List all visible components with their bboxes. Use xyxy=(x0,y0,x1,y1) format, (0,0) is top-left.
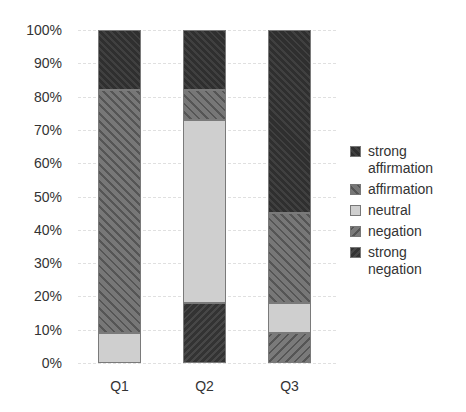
legend: strong affirmation affirmation neutral n… xyxy=(350,143,460,282)
bar-q1 xyxy=(98,30,141,363)
y-tick-label: 80% xyxy=(34,89,62,105)
segment-strong-affirmation xyxy=(268,30,311,213)
segment-neutral xyxy=(268,303,311,333)
legend-label: strong negation xyxy=(368,244,422,277)
y-tick-label: 100% xyxy=(26,22,62,38)
segment-neutral xyxy=(183,120,226,303)
legend-label: negation xyxy=(368,223,422,239)
segment-strong-affirmation xyxy=(98,30,141,90)
stacked-bar-chart: 0%10%20%30%40%50%60%70%80%90%100% Q1Q2Q3… xyxy=(0,0,466,412)
legend-item-affirmation: affirmation xyxy=(350,181,460,198)
neutral-swatch-icon xyxy=(350,205,361,216)
y-tick-label: 20% xyxy=(34,288,62,304)
legend-label: strong affirmation xyxy=(368,143,433,176)
legend-label: affirmation xyxy=(368,181,433,197)
y-tick-label: 0% xyxy=(42,355,62,371)
segment-neutral xyxy=(98,333,141,363)
negation-swatch-icon xyxy=(350,226,361,237)
strong-affirmation-swatch-icon xyxy=(350,146,361,157)
strong-negation-swatch-icon xyxy=(350,247,361,258)
legend-item-negation: negation xyxy=(350,223,460,240)
legend-label: neutral xyxy=(368,202,411,218)
gridline xyxy=(78,363,336,364)
bar-q2 xyxy=(183,30,226,363)
legend-item-strong-affirmation: strong affirmation xyxy=(350,143,460,177)
x-tick-label: Q3 xyxy=(280,378,299,394)
y-tick-label: 10% xyxy=(34,322,62,338)
segment-affirmation xyxy=(183,90,226,120)
y-tick-label: 50% xyxy=(34,189,62,205)
bar-q3 xyxy=(268,30,311,363)
segment-strong-negation xyxy=(183,303,226,363)
legend-item-neutral: neutral xyxy=(350,202,460,219)
affirmation-swatch-icon xyxy=(350,184,361,195)
y-tick-label: 40% xyxy=(34,222,62,238)
segment-affirmation xyxy=(98,90,141,333)
y-tick-label: 30% xyxy=(34,255,62,271)
segment-strong-affirmation xyxy=(183,30,226,90)
y-tick-label: 60% xyxy=(34,155,62,171)
legend-item-strong-negation: strong negation xyxy=(350,244,460,278)
y-tick-label: 70% xyxy=(34,122,62,138)
x-tick-label: Q1 xyxy=(110,378,129,394)
x-tick-label: Q2 xyxy=(195,378,214,394)
y-tick-label: 90% xyxy=(34,55,62,71)
segment-affirmation xyxy=(268,213,311,303)
segment-negation xyxy=(268,333,311,363)
